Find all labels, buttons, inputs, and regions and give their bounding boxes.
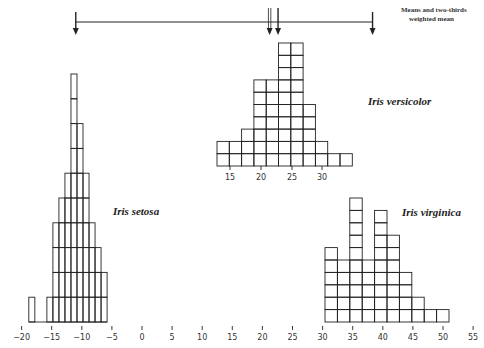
virginica-cell — [387, 235, 399, 247]
svg-text:0: 0 — [139, 333, 144, 342]
versicolor-cell — [291, 141, 303, 153]
svg-text:−10: −10 — [73, 333, 90, 342]
virginica-cell — [387, 297, 399, 309]
versicolor-cell — [291, 68, 303, 80]
virginica-cell — [350, 285, 362, 297]
setosa-cell — [53, 297, 59, 322]
versicolor-cell — [242, 141, 254, 153]
versicolor-cell — [266, 154, 278, 166]
svg-text:−15: −15 — [43, 333, 60, 342]
versicolor-cell — [266, 105, 278, 117]
svg-text:5: 5 — [170, 333, 175, 342]
versicolor-cell — [291, 55, 303, 67]
label-versicolor: Iris versicolor — [367, 95, 432, 107]
versicolor-cell — [303, 105, 315, 117]
virginica-cell — [337, 297, 349, 309]
virginica-cell — [375, 235, 387, 247]
setosa-cell — [83, 198, 89, 223]
setosa-cell — [53, 223, 59, 248]
setosa-histogram — [29, 74, 107, 322]
versicolor-cell — [254, 105, 266, 117]
setosa-cell — [83, 173, 89, 198]
virginica-cell — [387, 285, 399, 297]
svg-text:−20: −20 — [13, 333, 30, 342]
virginica-cell — [375, 260, 387, 272]
versicolor-cell — [279, 43, 291, 55]
setosa-cell — [53, 272, 59, 297]
versicolor-cell — [291, 43, 303, 55]
setosa-cell — [59, 248, 65, 273]
iris-histogram-chart: −20−15−10−50510152025303540455055 152025… — [0, 0, 484, 348]
x-axis: −20−15−10−50510152025303540455055 — [13, 326, 478, 342]
svg-text:25: 25 — [287, 333, 297, 342]
versicolor-histogram — [217, 43, 352, 166]
versicolor-cell — [279, 154, 291, 166]
setosa-cell — [77, 248, 83, 273]
setosa-cell — [95, 248, 101, 273]
virginica-cell — [362, 310, 374, 322]
virginica-cell — [325, 272, 337, 284]
virginica-cell — [437, 310, 449, 322]
virginica-cell — [350, 198, 362, 210]
means-note-line2: weighted mean — [409, 15, 454, 23]
setosa-cell — [83, 272, 89, 297]
virginica-cell — [412, 297, 424, 309]
virginica-cell — [412, 310, 424, 322]
setosa-cell — [71, 272, 77, 297]
versicolor-cell — [291, 154, 303, 166]
versicolor-cell — [291, 105, 303, 117]
versicolor-cell — [303, 154, 315, 166]
means-note-line1: Means and two-thirds — [401, 6, 467, 14]
virginica-cell — [350, 297, 362, 309]
svg-text:15: 15 — [227, 333, 237, 342]
virginica-cell — [375, 272, 387, 284]
versicolor-cell — [291, 92, 303, 104]
versicolor-cell — [266, 80, 278, 92]
svg-text:50: 50 — [438, 333, 448, 342]
versicolor-cell — [303, 129, 315, 141]
virginica-cell — [375, 248, 387, 260]
virginica-cell — [337, 310, 349, 322]
versicolor-cell — [254, 141, 266, 153]
virginica-cell — [362, 260, 374, 272]
versicolor-cell — [279, 92, 291, 104]
virginica-cell — [375, 223, 387, 235]
versicolor-cell — [254, 154, 266, 166]
versicolor-cell — [315, 154, 327, 166]
versicolor-cell — [229, 141, 241, 153]
setosa-cell — [71, 124, 77, 149]
setosa-cell — [83, 297, 89, 322]
versicolor-cell — [279, 117, 291, 129]
virginica-cell — [399, 272, 411, 284]
setosa-cell — [83, 248, 89, 273]
virginica-cell — [325, 285, 337, 297]
setosa-cell — [89, 272, 95, 297]
setosa-cell — [89, 297, 95, 322]
setosa-cell — [65, 198, 71, 223]
setosa-cell — [71, 148, 77, 173]
setosa-cell — [65, 297, 71, 322]
setosa-cell — [59, 272, 65, 297]
setosa-cell — [77, 124, 83, 149]
virginica-cell — [362, 285, 374, 297]
versicolor-cell — [291, 80, 303, 92]
virginica-cell — [375, 297, 387, 309]
virginica-cell — [325, 297, 337, 309]
setosa-cell — [101, 297, 107, 322]
versicolor-cell — [328, 154, 340, 166]
versicolor-cell — [266, 117, 278, 129]
virginica-cell — [375, 210, 387, 222]
svg-text:55: 55 — [468, 333, 478, 342]
virginica-cell — [387, 272, 399, 284]
setosa-cell — [47, 297, 53, 322]
setosa-cell — [89, 223, 95, 248]
versicolor-cell — [266, 141, 278, 153]
setosa-cell — [65, 173, 71, 198]
virginica-cell — [325, 260, 337, 272]
svg-text:−5: −5 — [106, 333, 118, 342]
versicolor-cell — [254, 129, 266, 141]
setosa-cell — [95, 272, 101, 297]
svg-text:20: 20 — [257, 333, 267, 342]
setosa-cell — [71, 198, 77, 223]
virginica-cell — [387, 260, 399, 272]
